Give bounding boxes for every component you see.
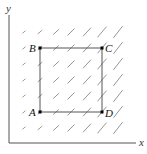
field-segment [53, 30, 58, 35]
vertex-b-point [39, 47, 42, 50]
field-segment [68, 125, 74, 131]
y-axis-label: y [5, 2, 11, 14]
field-segment [114, 74, 123, 85]
field-segment [38, 30, 42, 33]
vertex-c-label: C [105, 42, 113, 54]
field-segment [53, 62, 58, 67]
coordinate-axes: y x [5, 2, 144, 148]
field-segment [23, 111, 25, 113]
field-segment [23, 127, 25, 129]
field-segment [98, 123, 106, 133]
vertex-d-point [101, 111, 104, 114]
field-segment [23, 47, 25, 49]
field-segment [68, 29, 74, 35]
vector-field-diagram: y x ABCD [0, 0, 147, 154]
field-segment [53, 94, 58, 99]
field-segment [98, 27, 106, 37]
field-segment [114, 106, 123, 117]
field-segment [68, 61, 74, 67]
vertex-d-label: D [104, 107, 113, 119]
x-axis-label: x [138, 136, 144, 148]
field-segment [114, 58, 123, 69]
vertex-c-point [101, 47, 104, 50]
field-segment [83, 76, 91, 84]
field-segment [38, 126, 42, 129]
field-segment [53, 126, 58, 131]
field-segment [23, 95, 25, 97]
field-segment [83, 60, 91, 68]
vertex-a-point [39, 111, 42, 114]
field-segment [114, 42, 123, 53]
field-segment [114, 122, 123, 133]
field-segment [83, 28, 91, 36]
field-segment [23, 79, 25, 81]
vertex-a-label: A [28, 106, 36, 118]
field-segment [53, 78, 58, 83]
field-segment [114, 90, 123, 101]
field-segment [23, 63, 25, 65]
field-segment [83, 124, 91, 132]
field-segment [68, 93, 74, 99]
field-segment [83, 92, 91, 100]
field-segment [68, 77, 74, 83]
field-segment [23, 31, 25, 33]
vertex-b-label: B [29, 42, 36, 54]
field-segment [114, 26, 123, 37]
